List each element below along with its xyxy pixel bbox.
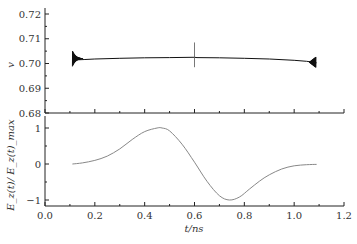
bottom-x-ticks: 0.00.20.40.60.81.01.2: [37, 202, 352, 221]
bottom-panel: 10−1 0.00.20.40.60.81.01.2 E_z(t)/ E_z(t…: [5, 116, 352, 234]
bottom-y-tick-label: −1: [26, 195, 41, 206]
x-tick-label: 0.2: [87, 210, 103, 221]
chart-figure: 0.680.690.700.710.72 v 10−1 0.00.20.40.6…: [0, 0, 357, 244]
top-y-tick-label: 0.68: [19, 108, 41, 119]
bottom-line: [72, 128, 316, 200]
x-tick-label: 1.2: [336, 210, 352, 221]
top-y-tick-label: 0.71: [19, 33, 41, 44]
bottom-y-ticks: 10−1: [26, 123, 49, 206]
top-series-v: [72, 42, 316, 67]
x-tick-label: 1.0: [286, 210, 302, 221]
top-y-axis-title: v: [5, 62, 16, 68]
top-panel: 0.680.690.700.710.72 v: [5, 8, 344, 119]
top-y-tick-label: 0.69: [19, 83, 41, 94]
bottom-y-axis-title: E_z(t)/ E_z(t)_max: [5, 119, 17, 212]
top-x-ticks: [45, 109, 344, 113]
x-tick-label: 0.0: [37, 210, 53, 221]
x-tick-label: 0.8: [236, 210, 252, 221]
bottom-y-tick-label: 1: [35, 123, 41, 134]
top-burst-start: [72, 51, 82, 66]
x-tick-label: 0.6: [187, 210, 203, 221]
top-y-tick-label: 0.72: [19, 9, 41, 20]
top-y-tick-label: 0.70: [19, 58, 41, 69]
top-y-ticks: 0.680.690.700.710.72: [19, 9, 49, 119]
bottom-series-ez: [72, 128, 316, 200]
x-tick-label: 0.4: [137, 210, 153, 221]
top-burst-end: [309, 57, 316, 67]
x-axis-title: t/ns: [185, 223, 204, 234]
bottom-y-tick-label: 0: [35, 159, 41, 170]
